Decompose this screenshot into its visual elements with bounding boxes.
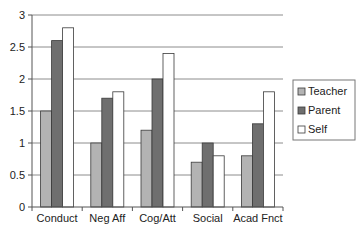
legend-swatch-parent	[298, 107, 305, 114]
bar-parent-2	[152, 79, 163, 207]
y-axis-ticks: 00.511.522.53	[10, 9, 32, 213]
bar-teacher-2	[141, 130, 152, 207]
x-tick-label-3: Social	[193, 212, 223, 224]
legend-label-teacher: Teacher	[308, 85, 347, 97]
bar-parent-3	[202, 143, 213, 207]
legend-swatch-self	[298, 126, 305, 133]
y-tick-label-3: 1.5	[10, 105, 25, 117]
bar-teacher-4	[241, 156, 252, 207]
legend: TeacherParentSelf	[293, 80, 355, 140]
y-tick-label-0: 0	[19, 201, 25, 213]
x-tick-label-0: Conduct	[37, 212, 78, 224]
bar-self-2	[163, 53, 174, 207]
bar-teacher-1	[91, 143, 102, 207]
bars	[41, 28, 275, 207]
bar-teacher-3	[191, 162, 202, 207]
bar-self-1	[113, 92, 124, 207]
bar-parent-1	[102, 98, 113, 207]
x-axis-ticks: ConductNeg AffCog/AttSocialAcad Fnct	[32, 207, 283, 224]
bar-self-3	[213, 156, 224, 207]
legend-swatch-teacher	[298, 88, 305, 95]
legend-label-self: Self	[308, 123, 328, 135]
bar-self-0	[63, 28, 74, 207]
x-tick-label-1: Neg Aff	[89, 212, 126, 224]
y-tick-label-6: 3	[19, 9, 25, 21]
y-tick-label-4: 2	[19, 73, 25, 85]
x-tick-label-4: Acad Fnct	[233, 212, 283, 224]
bar-parent-4	[252, 124, 263, 207]
bar-self-4	[263, 92, 274, 207]
bar-teacher-0	[41, 111, 52, 207]
bar-parent-0	[52, 41, 63, 207]
y-tick-label-2: 1	[19, 137, 25, 149]
legend-label-parent: Parent	[308, 104, 340, 116]
bar-chart: 00.511.522.53 ConductNeg AffCog/AttSocia…	[0, 0, 359, 230]
x-tick-label-2: Cog/Att	[139, 212, 176, 224]
y-tick-label-5: 2.5	[10, 41, 25, 53]
y-tick-label-1: 0.5	[10, 169, 25, 181]
